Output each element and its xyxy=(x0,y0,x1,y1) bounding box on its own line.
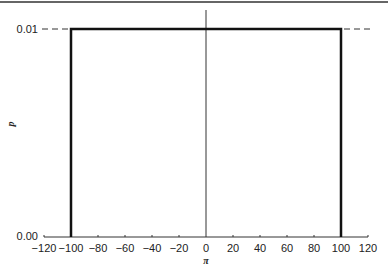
y-tick-label-bottom: 0.00 xyxy=(17,230,38,242)
x-tick-labels: −120 −100 −80 −60 −40 −20 0 20 40 60 80 … xyxy=(32,242,378,254)
y-tick-label-top: 0.01 xyxy=(17,23,38,35)
y-axis-label: p xyxy=(5,122,16,128)
svg-text:100: 100 xyxy=(332,242,350,254)
svg-text:20: 20 xyxy=(227,242,239,254)
svg-text:−60: −60 xyxy=(116,242,135,254)
svg-text:60: 60 xyxy=(281,242,293,254)
svg-text:0: 0 xyxy=(203,242,209,254)
svg-text:−120: −120 xyxy=(32,242,57,254)
svg-text:40: 40 xyxy=(254,242,266,254)
svg-text:80: 80 xyxy=(308,242,320,254)
svg-text:120: 120 xyxy=(359,242,377,254)
svg-text:−20: −20 xyxy=(170,242,189,254)
svg-text:−40: −40 xyxy=(143,242,162,254)
svg-text:−80: −80 xyxy=(89,242,108,254)
uniform-distribution-chart: −120 −100 −80 −60 −40 −20 0 20 40 60 80 … xyxy=(0,0,388,274)
x-axis-label: π xyxy=(203,255,209,266)
svg-text:−100: −100 xyxy=(59,242,84,254)
